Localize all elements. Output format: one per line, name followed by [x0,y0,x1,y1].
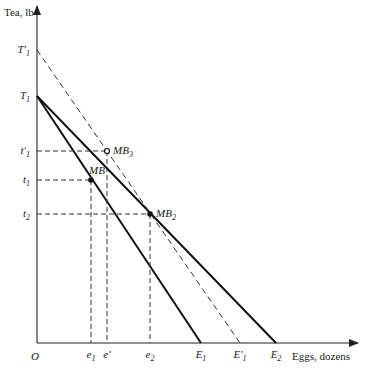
x-tick-label-e1p: E′1 [232,348,246,363]
y-tick-label-t2: t2 [23,207,30,222]
point-label-mb3: MB3 [112,144,133,159]
x-tick-label-e1: e1 [87,348,96,363]
x-tick-label-ep: e′ [103,348,111,360]
point-mb3 [105,149,110,154]
y-axis-label: Tea, lb [4,6,34,18]
labels-layer: T′1T1t′1t1t2e1e′e2E1E′1E2 [17,43,281,363]
point-label-mb2: MB2 [155,207,176,222]
x-tick-label-e2: e2 [146,348,155,363]
x-tick-label-e1: E1 [195,348,207,363]
budget-line-T1-E1 [37,96,201,343]
points-layer: MB3MBMB2 [88,144,176,222]
budget-line-diagram: Tea, lb Eggs, dozens O T′1T1t′1t1t2e1e′e… [0,0,374,371]
x-axis-label: Eggs, dozens [292,350,350,362]
y-tick-label-t1: t1 [23,173,30,188]
x-tick-label-e2: E2 [270,348,282,363]
y-tick-label-t1p: t′1 [21,144,30,159]
point-mb2 [147,211,153,217]
y-tick-label-t1p: T′1 [17,43,30,58]
point-label-mb: MB [88,164,105,176]
point-mb [88,177,94,183]
lines-layer [37,50,276,343]
budget-line-T1p-E1p [37,50,240,343]
budget-line-T1-E2 [37,96,276,343]
origin-label: O [31,350,39,362]
y-tick-label-t1: T1 [20,89,30,104]
